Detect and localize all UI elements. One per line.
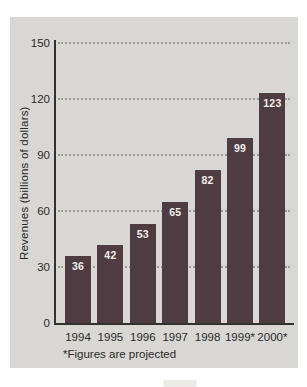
y-tick-label: 120 <box>12 92 50 106</box>
bar: 82 <box>195 170 221 323</box>
bar-value-label: 53 <box>130 228 156 240</box>
bar-value-label: 123 <box>259 97 285 109</box>
scan-artifact <box>163 380 197 387</box>
bar-value-label: 65 <box>162 206 188 218</box>
y-tick-label: 90 <box>12 148 50 162</box>
x-tick-label: 2000* <box>249 331 295 343</box>
x-axis-line <box>54 323 294 325</box>
bar: 53 <box>130 224 156 323</box>
footnote: *Figures are projected <box>63 348 176 360</box>
y-tick-label: 150 <box>12 36 50 50</box>
bar-value-label: 82 <box>195 174 221 186</box>
bar: 65 <box>162 202 188 323</box>
bar: 99 <box>227 138 253 323</box>
y-tick-label: 30 <box>12 260 50 274</box>
y-axis-title: Revenues (billions of dollars) <box>15 43 33 323</box>
bar-value-label: 42 <box>97 249 123 261</box>
bar: 123 <box>259 93 285 323</box>
bar-value-label: 36 <box>65 260 91 272</box>
bar-value-label: 99 <box>227 142 253 154</box>
bar: 42 <box>97 245 123 323</box>
gridline <box>58 42 290 44</box>
revenue-bar-chart-figure: Revenues (billions of dollars) 361994421… <box>0 0 307 387</box>
gridline <box>58 154 290 156</box>
y-axis-line <box>54 40 56 325</box>
gridline <box>58 98 290 100</box>
y-tick-label: 0 <box>12 316 50 330</box>
bar: 36 <box>65 256 91 323</box>
y-tick-label: 60 <box>12 204 50 218</box>
